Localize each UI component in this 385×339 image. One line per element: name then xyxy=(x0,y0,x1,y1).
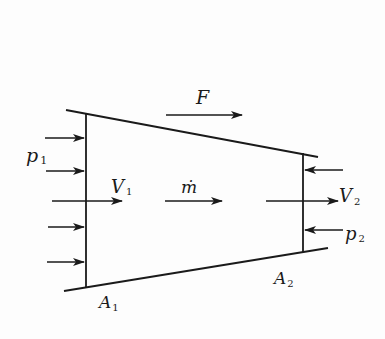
outlet-area-label: A2 xyxy=(272,268,294,289)
inlet-pressure-arrows xyxy=(45,138,84,262)
inlet-velocity-label: V1 xyxy=(111,176,132,197)
outlet-velocity-label: V2 xyxy=(339,185,360,207)
force-label: F xyxy=(195,86,210,108)
outlet-pressure-label: p2 xyxy=(345,223,365,244)
inlet-pressure-label: p1 xyxy=(26,144,47,167)
mass-flow-label: ṁ xyxy=(181,177,197,197)
diagram-canvas: F ṁ p1 V1 A1 V2 p2 A2 xyxy=(0,0,385,339)
top-wall xyxy=(66,110,318,157)
inlet-area-label: A1 xyxy=(97,292,119,313)
outlet-pressure-arrows xyxy=(305,170,343,230)
control-volume-diagram: F ṁ p1 V1 A1 V2 p2 A2 xyxy=(0,0,385,339)
